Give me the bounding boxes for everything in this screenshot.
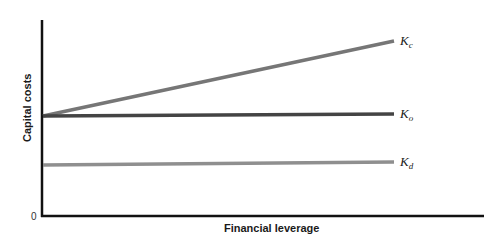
series-ko-line	[43, 114, 394, 116]
origin-label: 0	[31, 211, 37, 222]
series-kc-line	[43, 41, 394, 116]
series-kd-line	[43, 162, 394, 165]
series-ko-label: Ko	[399, 106, 414, 123]
chart: Kc Ko Kd Capital costs Financial leverag…	[0, 0, 498, 246]
series-kd-label: Kd	[399, 154, 414, 171]
series-kc-label: Kc	[399, 33, 413, 50]
y-axis-label: Capital costs	[21, 74, 33, 142]
x-axis-label: Financial leverage	[224, 222, 319, 234]
